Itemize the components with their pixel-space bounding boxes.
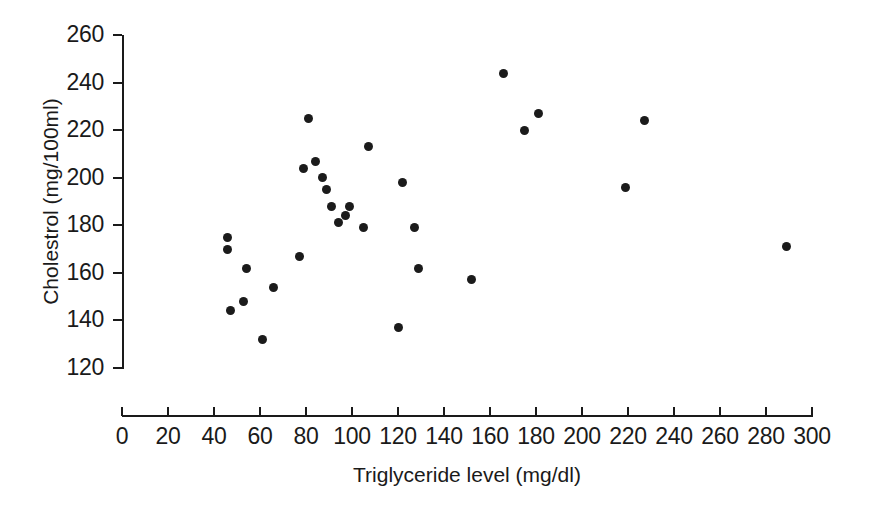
data-point: [334, 218, 343, 227]
data-point: [239, 297, 248, 306]
x-axis-tick: [259, 407, 261, 416]
data-point: [467, 275, 476, 284]
x-axis-tick: [719, 407, 721, 416]
x-axis-tick: [121, 407, 123, 416]
plot-area: [122, 35, 812, 368]
data-point: [322, 185, 331, 194]
data-point: [341, 211, 350, 220]
data-point: [223, 245, 232, 254]
x-axis-tick-label: 300: [782, 425, 842, 448]
y-axis-tick: [113, 82, 122, 84]
x-axis-tick: [535, 407, 537, 416]
x-axis-tick: [305, 407, 307, 416]
data-point: [345, 202, 354, 211]
data-point: [414, 264, 423, 273]
data-point: [299, 164, 308, 173]
data-point: [410, 223, 419, 232]
y-axis-tick: [113, 177, 122, 179]
x-axis-tick: [167, 407, 169, 416]
x-axis-tick: [397, 407, 399, 416]
y-axis-tick: [113, 129, 122, 131]
y-axis-line: [122, 35, 124, 369]
y-axis-title: Cholestrol (mg/100ml): [40, 35, 61, 368]
data-point: [304, 114, 313, 123]
y-axis-tick: [113, 224, 122, 226]
data-point: [520, 126, 529, 135]
x-axis-tick: [351, 407, 353, 416]
y-axis-tick: [113, 34, 122, 36]
x-axis-tick: [581, 407, 583, 416]
x-axis-tick: [627, 407, 629, 416]
x-axis-tick: [443, 407, 445, 416]
data-point: [223, 233, 232, 242]
y-axis-tick: [113, 319, 122, 321]
data-point: [226, 306, 235, 315]
data-point: [621, 183, 630, 192]
x-axis-tick: [673, 407, 675, 416]
data-point: [499, 69, 508, 78]
data-point: [394, 323, 403, 332]
data-point: [258, 335, 267, 344]
data-point: [327, 202, 336, 211]
data-point: [364, 142, 373, 151]
x-axis-title: Triglyceride level (mg/dl): [122, 464, 812, 485]
x-axis-tick: [811, 407, 813, 416]
y-axis-tick: [113, 272, 122, 274]
data-point: [242, 264, 251, 273]
data-point: [311, 157, 320, 166]
x-axis-tick: [213, 407, 215, 416]
data-point: [398, 178, 407, 187]
data-point: [534, 109, 543, 118]
x-axis-tick: [489, 407, 491, 416]
data-point: [640, 116, 649, 125]
data-point: [359, 223, 368, 232]
scatter-chart-figure: 120140160180200220240260 020406080100120…: [0, 0, 874, 509]
x-axis-tick: [765, 407, 767, 416]
x-axis-line: [122, 415, 813, 417]
data-point: [295, 252, 304, 261]
data-point: [318, 173, 327, 182]
data-point: [269, 283, 278, 292]
data-point: [782, 242, 791, 251]
y-axis-tick: [113, 367, 122, 369]
